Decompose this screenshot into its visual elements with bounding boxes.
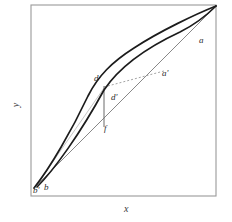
figure-container: a a' d d' f b' b x y: [0, 0, 232, 222]
point-label-b: b: [44, 183, 49, 192]
point-label-f: f: [104, 124, 107, 133]
y-axis-label: y: [11, 103, 21, 107]
x-axis-label: x: [124, 204, 128, 214]
point-label-a-prime: a': [162, 69, 168, 78]
point-label-a: a: [199, 36, 204, 45]
straight-chord-b-to-corner: [34, 6, 216, 188]
point-label-b-prime: b': [33, 186, 39, 195]
point-label-d-prime: d': [111, 93, 117, 102]
point-label-d: d: [94, 74, 99, 83]
